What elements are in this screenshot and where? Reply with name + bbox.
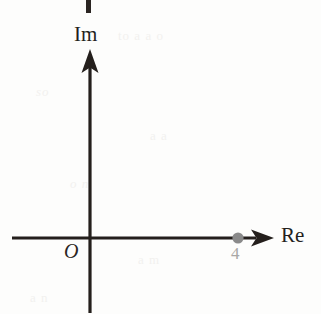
real-axis-label: Re xyxy=(281,223,304,248)
origin-label: O xyxy=(64,240,78,263)
plotted-point-4 xyxy=(232,232,243,243)
complex-plane-figure: to a a o so a a o n a m a n Im Re O 4 xyxy=(0,0,321,314)
imaginary-axis-label: Im xyxy=(74,22,97,47)
point-value-label: 4 xyxy=(231,244,240,264)
axes-canvas xyxy=(0,0,321,314)
